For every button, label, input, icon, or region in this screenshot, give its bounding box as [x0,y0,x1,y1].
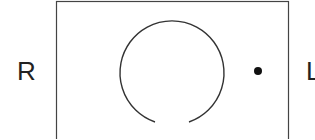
fixation-dot [254,67,262,75]
visual-field-diagram [0,0,315,139]
field-frame [57,2,289,140]
landolt-ring-icon [120,21,224,122]
left-eye-label: L [306,58,315,84]
